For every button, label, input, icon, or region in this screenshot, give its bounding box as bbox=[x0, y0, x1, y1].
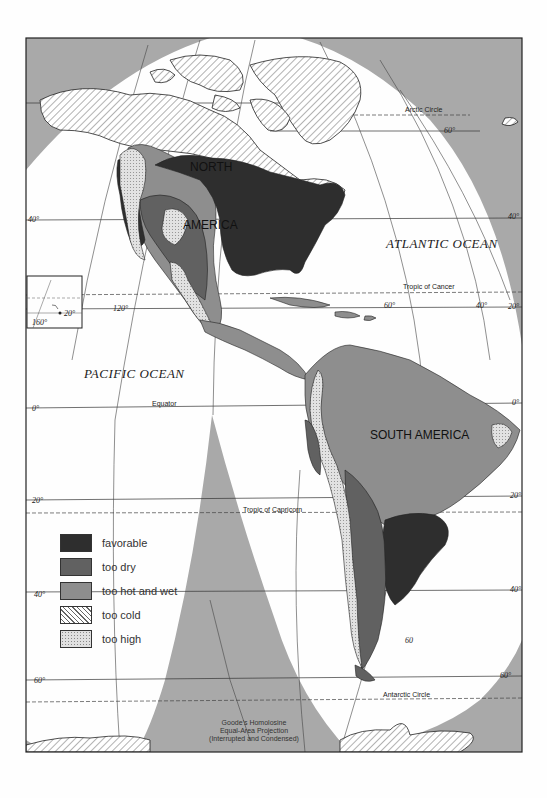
legend-label: too high bbox=[102, 633, 141, 645]
label-equator: Equator bbox=[152, 400, 177, 407]
label-atlantic-ocean: ATLANTIC OCEAN bbox=[386, 236, 498, 252]
map-canvas bbox=[0, 0, 547, 798]
lat-20s-right: 20° bbox=[510, 491, 521, 500]
label-south-america: SOUTH AMERICA bbox=[370, 428, 469, 442]
lat-60s-right: 60° bbox=[500, 671, 511, 680]
caption-line-3: (Interrupted and Condensed) bbox=[188, 735, 320, 743]
swatch-favorable bbox=[60, 534, 92, 552]
legend-item-too-dry: too dry bbox=[60, 555, 177, 579]
inset-lat-20: 20° bbox=[64, 309, 75, 318]
label-america: AMERICA bbox=[183, 218, 238, 232]
legend-item-too-cold: too cold bbox=[60, 603, 177, 627]
lon-60-south: 60 bbox=[405, 636, 413, 645]
projection-caption: Goode's Homolosine Equal-Area Projection… bbox=[188, 719, 320, 743]
lat-40s-right: 40° bbox=[510, 585, 521, 594]
legend-label: too cold bbox=[102, 609, 141, 621]
label-pacific-ocean: PACIFIC OCEAN bbox=[84, 366, 185, 382]
swatch-too-high bbox=[60, 630, 92, 648]
legend-label: too dry bbox=[102, 561, 136, 573]
legend-item-too-hot-wet: too hot and wet bbox=[60, 579, 177, 603]
swatch-too-hot-wet bbox=[60, 582, 92, 600]
label-arctic-circle: Arctic Circle bbox=[405, 106, 442, 113]
caption-line-2: Equal-Area Projection bbox=[188, 727, 320, 735]
legend-label: favorable bbox=[102, 537, 147, 549]
label-tropic-cancer: Tropic of Cancer bbox=[403, 283, 454, 290]
label-antarctic-circle: Antarctic Circle bbox=[383, 691, 430, 698]
lon-40: 40° bbox=[476, 301, 487, 310]
lat-40n-right: 40° bbox=[508, 212, 519, 221]
legend-item-too-high: too high bbox=[60, 627, 177, 651]
legend: favorable too dry too hot and wet too co… bbox=[60, 531, 177, 651]
legend-item-favorable: favorable bbox=[60, 531, 177, 555]
lat-40s-left: 40° bbox=[34, 590, 45, 599]
lat-60n-right: 60° bbox=[444, 126, 455, 135]
inset-lon-160: 160° bbox=[32, 318, 47, 327]
lat-0-right: 0° bbox=[512, 398, 519, 407]
lon-120: 120° bbox=[113, 304, 128, 313]
caption-line-1: Goode's Homolosine bbox=[188, 719, 320, 727]
legend-label: too hot and wet bbox=[102, 585, 177, 597]
swatch-too-cold bbox=[60, 606, 92, 624]
label-tropic-capricorn: Tropic of Capricorn bbox=[243, 506, 302, 513]
lat-20s-left: 20° bbox=[32, 496, 43, 505]
lat-0-left: 0° bbox=[32, 404, 39, 413]
lat-20n-right: 20° bbox=[508, 302, 519, 311]
swatch-too-dry bbox=[60, 558, 92, 576]
label-north: NORTH bbox=[190, 160, 232, 174]
lat-60s-left: 60° bbox=[34, 676, 45, 685]
lat-40n-left: 40° bbox=[28, 215, 39, 224]
lon-60: 60° bbox=[384, 301, 395, 310]
